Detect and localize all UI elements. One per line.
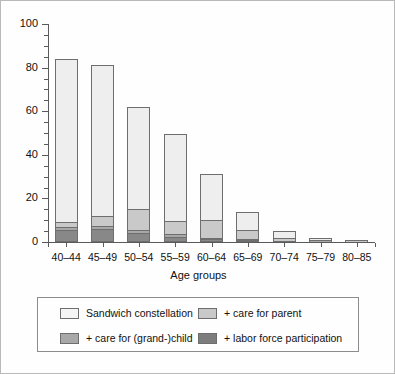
bar-segment (55, 227, 78, 230)
bar-segment (345, 240, 368, 241)
x-axis-tick (66, 243, 67, 247)
y-axis-tick-label: 60 (4, 105, 38, 116)
y-axis-tick-label: 80 (4, 62, 38, 73)
legend-swatch-sandwich-constellation (60, 308, 79, 319)
bar-segment (236, 240, 259, 242)
y-axis-tick-label: 20 (4, 192, 38, 203)
x-axis-tick (321, 243, 322, 247)
x-axis-tick-boundary (375, 243, 376, 247)
bar-segment (309, 238, 332, 241)
x-axis-tick (175, 243, 176, 247)
bar-segment (55, 59, 78, 223)
bar-segment (200, 220, 223, 237)
x-axis-tick (139, 243, 140, 247)
bar-segment (55, 230, 78, 242)
bar-stack (55, 24, 78, 242)
bar-stack (164, 24, 187, 242)
bar-segment (55, 222, 78, 226)
legend-item-labor-force-participation: + labor force participation (198, 327, 342, 349)
bar-segment (164, 234, 187, 236)
x-axis-tick-label: 80–85 (332, 251, 382, 263)
bar-segment (164, 221, 187, 234)
bar-segment (236, 212, 259, 231)
bar-stack (236, 24, 259, 242)
y-axis-tick-label: 0 (4, 236, 38, 247)
plot-area (48, 24, 375, 242)
legend-label-labor-force-participation: + labor force participation (224, 332, 342, 344)
bar-segment (200, 174, 223, 220)
legend-item-care-for-parent: + care for parent (198, 302, 301, 324)
legend-label-care-for-parent: + care for parent (224, 307, 301, 319)
x-axis-tick (103, 243, 104, 247)
bar-stack (127, 24, 150, 242)
bar-segment (91, 65, 114, 215)
y-axis-tick-label: 40 (4, 149, 38, 160)
bar-segment (309, 240, 332, 241)
bar-segment (236, 239, 259, 240)
bar-segment (91, 226, 114, 229)
bar-stack (200, 24, 223, 242)
bar-stack (91, 24, 114, 242)
bar-segment (91, 229, 114, 242)
x-axis-title: Age groups (1, 269, 395, 281)
bar-segment (273, 238, 296, 241)
x-axis-tick (284, 243, 285, 247)
x-axis-tick (357, 243, 358, 247)
bar-segment (236, 230, 259, 239)
legend-item-care-for-grandchild: + care for (grand-)child (60, 327, 193, 349)
legend-item-sandwich-constellation: Sandwich constellation (60, 302, 193, 324)
bar-segment (91, 216, 114, 226)
bar-stack (309, 24, 332, 242)
bar-stack (345, 24, 368, 242)
x-axis-tick (212, 243, 213, 247)
legend-swatch-care-for-grandchild (60, 333, 79, 344)
x-axis-tick (248, 243, 249, 247)
bar-segment (273, 231, 296, 238)
legend-swatch-care-for-parent (198, 308, 217, 319)
bar-segment (164, 134, 187, 221)
y-axis-tick-label: 100 (4, 18, 38, 29)
legend-row-2: + care for (grand-)child + labor force p… (38, 327, 358, 349)
legend-label-sandwich-constellation: Sandwich constellation (86, 307, 193, 319)
legend-swatch-labor-force-participation (198, 333, 217, 344)
bar-segment (200, 238, 223, 239)
x-axis-tick-boundary (48, 243, 49, 247)
bar-segment (127, 209, 150, 230)
bar-segment (127, 233, 150, 242)
legend-label-care-for-grandchild: + care for (grand-)child (86, 332, 193, 344)
bar-segment (164, 237, 187, 242)
bar-segment (200, 239, 223, 242)
bar-segment (127, 107, 150, 209)
bar-segment (127, 230, 150, 233)
chart-legend: Sandwich constellation + care for parent… (37, 297, 359, 352)
legend-row-1: Sandwich constellation + care for parent (38, 302, 358, 324)
figure-container: 020406080100 40–4445–4950–5455–5960–6465… (0, 0, 395, 374)
bar-stack (273, 24, 296, 242)
